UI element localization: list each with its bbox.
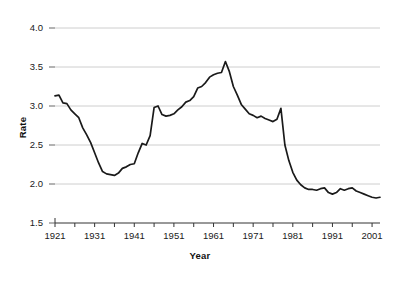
x-tick-label: 1941 (114, 230, 154, 241)
series-rate-line (55, 62, 380, 199)
axis-ticks (49, 28, 372, 227)
y-axis-title: Rate (17, 98, 28, 158)
x-tick-label: 1931 (75, 230, 115, 241)
data-series-line (55, 62, 380, 199)
y-tick-label: 3.5 (15, 61, 43, 72)
x-axis-title: Year (0, 250, 400, 261)
x-tick-label: 1981 (273, 230, 313, 241)
axis-lines (55, 218, 380, 223)
x-tick-label: 2001 (352, 230, 392, 241)
x-tick-label: 1921 (35, 230, 75, 241)
y-tick-label: 2.0 (15, 178, 43, 189)
chart-container: 4.03.53.02.52.01.5 192119311941195119611… (0, 0, 400, 283)
gridlines (55, 28, 380, 184)
x-tick-label: 1951 (154, 230, 194, 241)
y-tick-label: 4.0 (15, 22, 43, 33)
y-tick-label: 1.5 (15, 217, 43, 228)
x-tick-label: 1971 (233, 230, 273, 241)
x-tick-label: 1961 (194, 230, 234, 241)
x-tick-label: 1991 (312, 230, 352, 241)
